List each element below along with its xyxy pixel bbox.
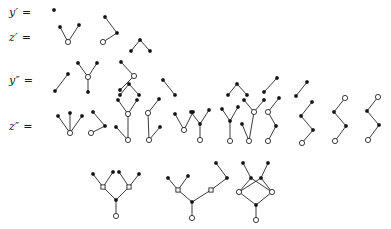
tree-z3-cherry-open — [129, 38, 151, 52]
tree-edge — [148, 113, 149, 140]
tree-node-filled — [103, 15, 106, 18]
tree-edge — [105, 17, 117, 33]
tree-node-filled — [53, 89, 56, 92]
tree-zd4-stem-cherry — [145, 97, 161, 142]
tree-node-filled — [161, 78, 164, 81]
tree-zd7-branch-tall — [220, 105, 239, 143]
tree-z2-path — [100, 15, 118, 44]
tree-node-filled — [173, 93, 176, 96]
tree-zd11-zigzag-open-head — [332, 95, 347, 143]
tree-zd8-branch-wide — [240, 98, 265, 143]
tree-node-filled — [114, 125, 117, 128]
tree-node-filled — [117, 170, 120, 173]
tree-node-hollow — [365, 137, 370, 142]
tree-node-filled — [118, 88, 121, 91]
tree-node-filled — [240, 122, 243, 125]
tree-zd14-asym-double — [166, 161, 228, 220]
tree-zd1-three-fan — [56, 111, 83, 135]
tree-node-hollow — [145, 110, 150, 115]
tree-node-filled — [127, 82, 130, 85]
tree-node-filled — [56, 114, 59, 117]
tree-edge — [68, 25, 79, 42]
tree-node-hollow — [125, 137, 130, 142]
tree-node-square — [209, 188, 213, 192]
tree-node-hollow — [236, 189, 241, 194]
tree-node-filled — [225, 176, 228, 179]
tree-node-filled — [235, 82, 238, 85]
tree-edge — [296, 82, 307, 96]
tree-canvas — [0, 0, 391, 229]
tree-node-filled — [77, 23, 80, 26]
tree-node-hollow — [251, 109, 256, 114]
tree-node-filled — [129, 49, 132, 52]
tree-node-filled — [365, 109, 368, 112]
tree-node-filled — [76, 61, 79, 64]
tree-node-square — [101, 185, 105, 189]
tree-node-filled — [137, 93, 140, 96]
tree-node-filled — [190, 200, 193, 203]
tree-node-filled — [119, 60, 122, 63]
tree-edge — [192, 190, 211, 202]
tree-node-square — [127, 185, 131, 189]
tree-node-filled — [95, 61, 98, 64]
tree-node-filled — [116, 98, 119, 101]
tree-edge — [140, 40, 150, 51]
tree-edge — [222, 109, 230, 121]
tree-zd10-zigzag-plain — [299, 100, 314, 145]
tree-node-filled — [137, 172, 140, 175]
tree-node-filled — [189, 110, 192, 113]
tree-node-filled — [228, 119, 231, 122]
tree-node-filled — [80, 114, 83, 117]
tree-node-hollow — [131, 73, 136, 78]
tree-node-hollow — [265, 109, 270, 114]
tree-node-hollow — [253, 217, 258, 222]
tree-node-filled — [52, 8, 55, 11]
tree-node-filled — [173, 112, 176, 115]
tree-node-filled — [241, 161, 244, 164]
tree-node-filled — [226, 93, 229, 96]
tree-node-hollow — [113, 213, 118, 218]
tree-edge — [216, 163, 227, 178]
tree-edge — [264, 78, 277, 92]
tree-edge — [239, 178, 261, 192]
tree-node-filled — [220, 107, 223, 110]
tree-edge — [237, 84, 247, 95]
tree-zd9-zig-open-top — [265, 96, 280, 143]
tree-node-filled — [103, 124, 106, 127]
tree-node-filled — [275, 76, 278, 79]
tree-node-filled — [266, 161, 269, 164]
tree-edge — [129, 84, 139, 95]
tree-node-filled — [91, 172, 94, 175]
tree-node-hollow — [125, 111, 130, 116]
tree-zd13-symmetric-double — [91, 170, 140, 218]
tree-edge — [93, 112, 105, 126]
tree-edge — [58, 116, 70, 133]
tree-edge — [191, 112, 200, 124]
tree-edge — [239, 192, 256, 205]
tree-node-filled — [254, 203, 257, 206]
tree-zd2-path-cherry — [88, 110, 106, 135]
tree-node-hollow — [88, 130, 93, 135]
tree-yd6-cherry-right — [226, 82, 248, 96]
tree-node-filled — [91, 110, 94, 113]
tree-yd2-y-with-stem — [76, 61, 98, 93]
tree-node-filled — [305, 80, 308, 83]
tree-node-hollow — [246, 138, 251, 143]
tree-node-filled — [310, 100, 313, 103]
tree-edge — [55, 74, 68, 91]
tree-edge — [70, 116, 82, 133]
tree-zd12-zigzag-open-head-2 — [365, 94, 380, 142]
tree-node-hollow — [85, 74, 90, 79]
tree-node-filled — [118, 93, 121, 96]
tree-node-filled — [68, 111, 71, 114]
tree-edge — [200, 110, 209, 124]
tree-node-filled — [294, 94, 297, 97]
tree-edge — [249, 112, 254, 141]
tree-edge — [228, 84, 237, 95]
tree-yd3-zigzag-open — [118, 60, 136, 91]
tree-node-filled — [115, 31, 118, 34]
tree-yd1-edge — [53, 72, 69, 92]
tree-node-filled — [262, 90, 265, 93]
tree-node-filled — [344, 124, 347, 127]
tree-node-filled — [166, 176, 169, 179]
